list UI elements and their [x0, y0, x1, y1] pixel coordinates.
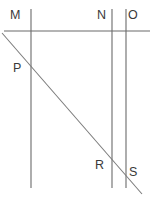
geometry-figure: M N O P R S	[0, 0, 156, 201]
point-label-s: S	[129, 166, 138, 179]
point-label-n: N	[97, 9, 106, 22]
point-label-r: R	[95, 159, 104, 172]
point-label-m: M	[10, 9, 21, 22]
point-label-p: P	[13, 62, 22, 75]
point-label-o: O	[128, 9, 138, 22]
transversal-line-prs	[2, 33, 142, 194]
